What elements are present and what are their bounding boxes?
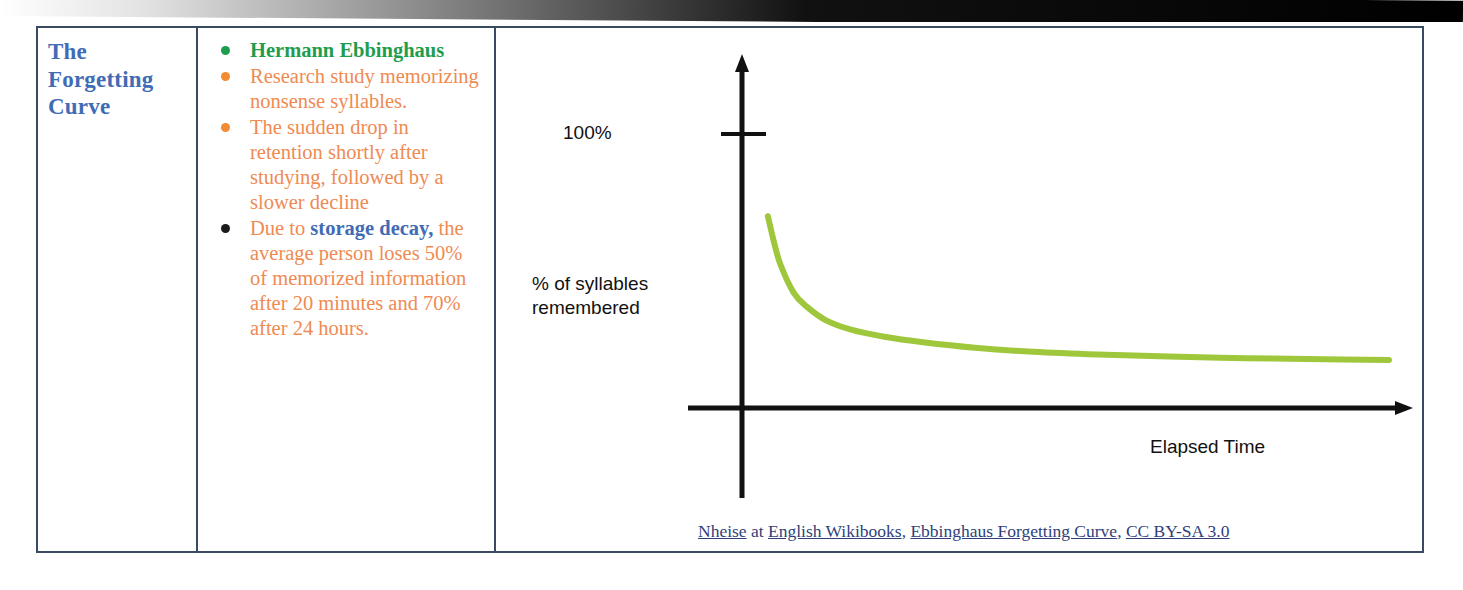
bullet-text-2: Research study memorizing nonsense sylla…	[250, 65, 479, 112]
x-axis-label: Elapsed Time	[1150, 436, 1265, 458]
bullet-text-4: Due to storage decay, the average person…	[250, 217, 466, 339]
caption-link-license[interactable]: CC BY-SA 3.0	[1126, 521, 1230, 541]
y-axis-label-line-2: remembered	[532, 296, 692, 320]
bullet-dot-icon	[221, 224, 230, 233]
x-axis-arrowhead	[1395, 401, 1413, 415]
list-item: Due to storage decay, the average person…	[206, 216, 484, 341]
bullet-text-4-emphasis: storage decay,	[310, 217, 433, 239]
scan-artifact-wedge	[0, 0, 1463, 22]
caption-link-source[interactable]: English Wikibooks	[768, 521, 902, 541]
y-axis-label: % of syllables remembered	[532, 272, 692, 320]
retention-curve	[768, 216, 1389, 360]
bullet-text-3: The sudden drop in retention shortly aft…	[250, 116, 444, 213]
bullet-dot-icon	[221, 72, 230, 81]
bullet-dot-icon	[221, 123, 230, 132]
table-cell-chart: 100% % of syllables remembered Elapsed T…	[496, 28, 1422, 551]
title-line-2: Forgetting	[48, 66, 188, 94]
caption-sep-2: ,	[1117, 521, 1126, 541]
forgetting-curve-table: The Forgetting Curve Hermann Ebbinghaus …	[36, 26, 1424, 553]
table-cell-bullets: Hermann Ebbinghaus Research study memori…	[198, 28, 496, 551]
list-item: Hermann Ebbinghaus	[206, 38, 484, 63]
title-line-1: The	[48, 38, 188, 66]
bullet-dot-icon	[221, 46, 230, 55]
bullet-text-1: Hermann Ebbinghaus	[250, 39, 444, 61]
title-line-3: Curve	[48, 93, 188, 121]
bullet-text-4-before: Due to	[250, 217, 310, 239]
y-axis-label-line-1: % of syllables	[532, 272, 692, 296]
caption-text-at: at	[747, 521, 768, 541]
image-attribution-caption: Nheise at English Wikibooks, Ebbinghaus …	[698, 521, 1229, 542]
table-cell-title: The Forgetting Curve	[38, 28, 198, 551]
bullet-list: Hermann Ebbinghaus Research study memori…	[206, 38, 484, 341]
list-item: Research study memorizing nonsense sylla…	[206, 64, 484, 114]
caption-link-work[interactable]: Ebbinghaus Forgetting Curve	[910, 521, 1117, 541]
scan-artifact-bar	[0, 0, 1463, 22]
list-item: The sudden drop in retention shortly aft…	[206, 115, 484, 215]
caption-link-author[interactable]: Nheise	[698, 521, 747, 541]
page-title: The Forgetting Curve	[48, 38, 188, 121]
y-axis-tick-label-100: 100%	[563, 122, 612, 144]
y-axis-arrowhead	[735, 54, 749, 72]
